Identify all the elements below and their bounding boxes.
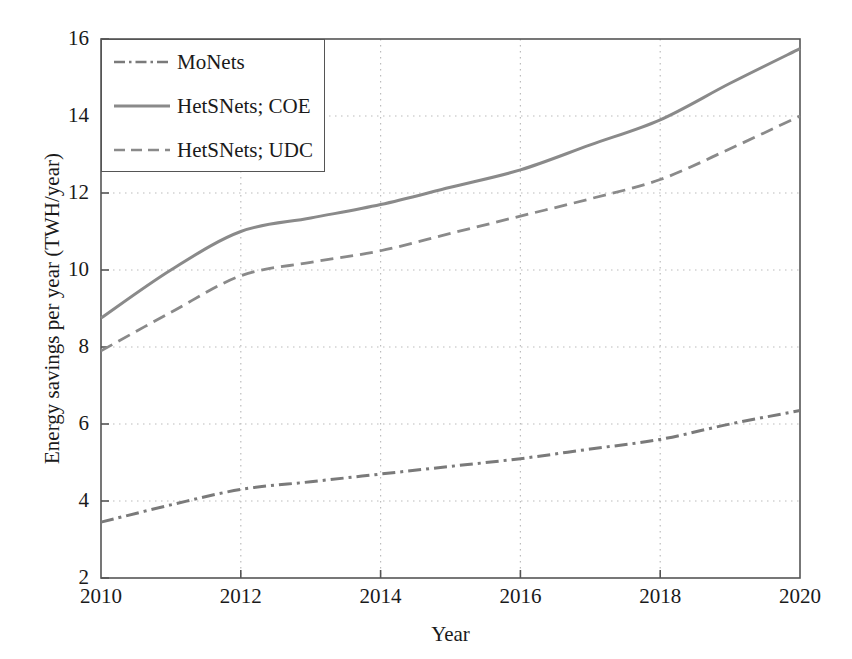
legend-line-sample-monets (113, 55, 171, 69)
series-line-monets (101, 411, 800, 523)
chart-legend: MoNets HetSNets; COE HetSNets; UDC (101, 39, 325, 172)
y-tick-label: 16 (43, 26, 89, 51)
legend-item-hetsnets-coe: HetSNets; COE (102, 84, 324, 128)
legend-item-hetsnets-udc: HetSNets; UDC (102, 128, 324, 172)
y-tick-label: 4 (43, 488, 89, 513)
legend-line-sample-hetsnets-udc (113, 143, 171, 157)
x-axis-label: Year (1, 622, 852, 647)
legend-label-hetsnets-udc: HetSNets; UDC (177, 140, 313, 161)
x-tick-label: 2014 (336, 584, 426, 609)
x-tick-label: 2018 (615, 584, 705, 609)
x-tick-label: 2016 (475, 584, 565, 609)
x-tick-label: 2020 (755, 584, 845, 609)
chart-figure: 246810121416201020122014201620182020 Ene… (0, 0, 852, 659)
y-axis-label: Energy savings per year (TWH/year) (40, 153, 65, 464)
legend-line-sample-hetsnets-coe (113, 99, 171, 113)
legend-label-monets: MoNets (177, 52, 245, 73)
legend-label-hetsnets-coe: HetSNets; COE (177, 96, 311, 117)
x-tick-label: 2010 (56, 584, 146, 609)
legend-item-monets: MoNets (102, 40, 324, 84)
x-tick-label: 2012 (196, 584, 286, 609)
y-tick-label: 14 (43, 103, 89, 128)
